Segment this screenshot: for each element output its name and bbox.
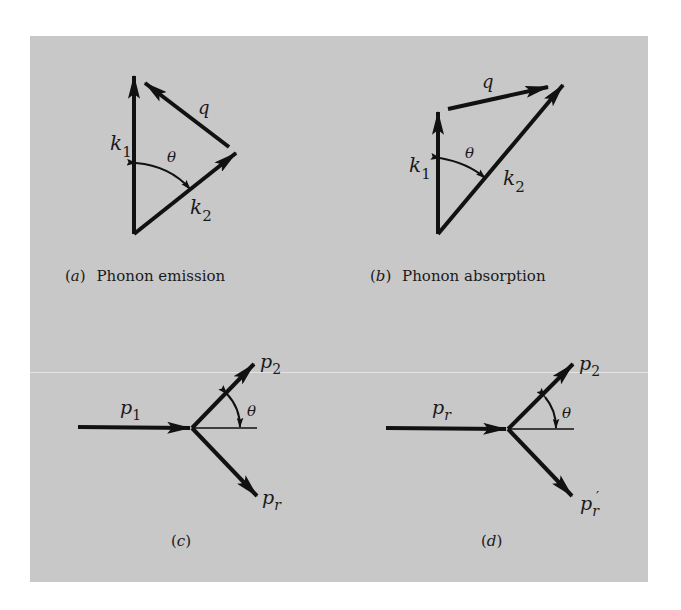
theta-label: θ (465, 144, 474, 162)
q-label: q (482, 71, 494, 92)
caption-a: (a) Phonon emission (65, 267, 225, 285)
theta-angle-arc (136, 163, 190, 189)
p1-incoming-arrow (78, 427, 190, 428)
panel-b-phonon-absorption: k1 k2 q θ (b) Phonon absorption (370, 71, 563, 285)
pr-in-label: pr (432, 396, 452, 423)
pr-incoming-arrow (386, 428, 506, 429)
theta-label: θ (562, 404, 571, 422)
theta-label: θ (167, 148, 176, 166)
theta-angle-arc (227, 394, 240, 427)
k2-label: k2 (503, 166, 525, 196)
pr-prime-label: pr′ (580, 489, 600, 519)
caption-d: (d) (481, 532, 502, 550)
caption-c: (c) (171, 532, 191, 550)
scattering-diagrams: k1 k2 q θ (a) Phonon emission k1 k2 q θ … (0, 0, 681, 610)
p1-label: p1 (120, 396, 141, 423)
theta-angle-arc (545, 397, 556, 428)
caption-b: (b) Phonon absorption (370, 267, 546, 285)
k1-label: k1 (409, 153, 431, 183)
k1-label: k1 (110, 131, 132, 161)
theta-angle-arc (440, 158, 485, 178)
p2-label: p2 (260, 350, 281, 377)
pr-outgoing-arrow (192, 428, 257, 496)
panel-a-phonon-emission: k1 k2 q θ (a) Phonon emission (65, 76, 236, 285)
pr-label: pr (262, 486, 282, 513)
panel-c-scattering: p1 p2 pr θ (c) (78, 350, 282, 550)
q-label: q (198, 97, 210, 118)
panel-d-scattering: pr p2 pr′ θ (d) (386, 352, 600, 550)
k2-label: k2 (190, 195, 212, 225)
p2-label: p2 (579, 352, 600, 379)
pr-prime-outgoing-arrow (508, 429, 572, 496)
q-vector-arrow (448, 87, 548, 109)
p2-outgoing-arrow (192, 364, 254, 428)
q-vector-arrow (145, 83, 229, 147)
theta-label: θ (247, 402, 256, 420)
